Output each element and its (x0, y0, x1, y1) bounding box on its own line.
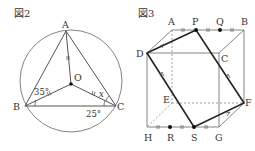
angle-arc-c-x (106, 96, 109, 101)
label-c: C (221, 53, 228, 64)
segment-oa (66, 31, 71, 84)
label-b: B (13, 101, 20, 112)
figure-2-title: 図2 (14, 8, 30, 19)
center-dot (69, 82, 73, 86)
points (168, 28, 222, 129)
angle-arc-c-25 (104, 101, 105, 106)
label-b: B (241, 16, 248, 27)
label-c: C (117, 101, 124, 112)
label-o: O (74, 72, 82, 83)
label-e: E (163, 94, 170, 105)
figure-2: 図2 A B C O 35° 25° x (0, 0, 128, 151)
label-s: S (191, 132, 198, 143)
label-q: Q (216, 16, 224, 27)
angle-x: x (99, 89, 104, 99)
label-g: G (215, 132, 223, 143)
figure-3: 図3 (127, 0, 255, 151)
label-d: D (136, 48, 144, 59)
figure-3-title: 図3 (138, 8, 154, 19)
label-p: P (192, 16, 199, 27)
angle-25: 25° (86, 109, 101, 119)
label-a: A (167, 16, 175, 27)
label-h: H (144, 132, 152, 143)
parallel-arrows (160, 44, 230, 116)
label-r: R (167, 132, 175, 143)
label-f: F (245, 97, 252, 108)
label-a: A (61, 19, 69, 30)
angle-35: 35° (34, 87, 49, 97)
